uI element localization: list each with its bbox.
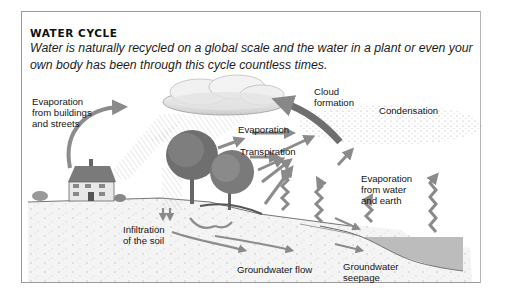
label-transpiration: Transpiration (240, 146, 296, 157)
label-groundwater-flow: Groundwater flow (237, 264, 312, 275)
label-evaporation-buildings: Evaporation from buildings and streets (32, 96, 92, 129)
label-cloud-formation: Cloud formation (314, 86, 354, 108)
diagram-title: WATER CYCLE (30, 27, 118, 39)
label-infiltration: Infiltration of the soil (123, 224, 165, 246)
label-evaporation-water-earth: Evaporation from water and earth (361, 173, 412, 206)
label-condensation: Condensation (379, 105, 438, 116)
house (32, 159, 126, 202)
label-groundwater-seepage: Groundwater seepage (343, 261, 398, 283)
cloud (163, 75, 287, 115)
label-evaporation: Evaporation (238, 124, 289, 135)
diagram-subtitle: Water is naturally recycled on a global … (30, 40, 480, 74)
